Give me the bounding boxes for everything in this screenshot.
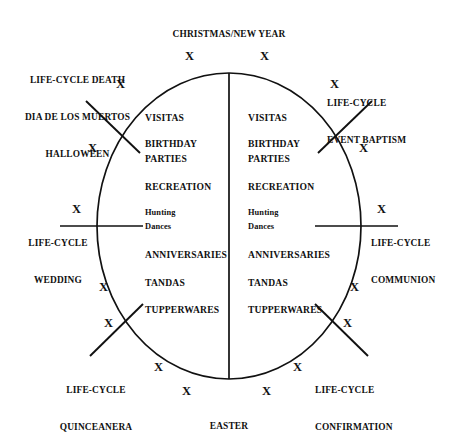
life-cycle-label-baptism: LIFE-CYCLE EVENT BAPTISM [327, 72, 451, 171]
life-cycle-confirmation-line-2: CONFIRMATION [315, 421, 440, 433]
life-cycle-communion-line-1: LIFE-CYCLE [371, 237, 455, 249]
x-marker-10: X [350, 281, 359, 294]
x-marker-15: X [182, 385, 191, 398]
life-cycle-label-confirmation: LIFE-CYCLE CONFIRMATION [315, 359, 440, 446]
left-entry-dances: Dances [145, 221, 171, 232]
x-marker-12: X [343, 317, 352, 330]
life-cycle-wedding-line-1: LIFE-CYCLE [12, 237, 104, 249]
anchor-label-bottom: EASTER [159, 420, 299, 432]
life-cycle-communion-line-2: COMMUNION [371, 274, 455, 286]
right-entry-anniversaries: ANNIVERSARIES [248, 249, 330, 262]
x-marker-2: X [260, 50, 269, 63]
left-entry-tupperwares: TUPPERWARES [145, 304, 219, 317]
x-marker-14: X [293, 361, 302, 374]
left-entry-anniversaries: ANNIVERSARIES [145, 249, 227, 262]
life-cycle-label-wedding: LIFE-CYCLE WEDDING [12, 212, 104, 311]
anchor-label-top: CHRISTMAS/NEW YEAR [139, 28, 319, 40]
right-entry-tupperwares: TUPPERWARES [248, 304, 322, 317]
life-cycle-death-line-2: DIA DE LOS MUERTOS [10, 111, 145, 123]
x-marker-6: X [359, 142, 368, 155]
life-cycle-baptism-line-2: EVENT BAPTISM [327, 134, 451, 146]
life-cycle-death-line-3: HALLOWEEN [10, 148, 145, 160]
right-entry-parties: PARTIES [248, 153, 290, 166]
life-cycle-baptism-line-1: LIFE-CYCLE [327, 97, 451, 109]
cycle-diagram-canvas: CHRISTMAS/NEW YEAR EASTER LIFE-CYCLE DEA… [0, 0, 455, 446]
life-cycle-label-communion: LIFE-CYCLE COMMUNION [371, 212, 455, 311]
right-entry-hunting: Hunting [248, 207, 279, 218]
right-entry-tandas: TANDAS [248, 277, 288, 290]
leader-line-confirmation [315, 304, 368, 356]
life-cycle-label-death: LIFE-CYCLE DEATH DIA DE LOS MUERTOS HALL… [10, 49, 145, 185]
x-marker-7: X [72, 203, 81, 216]
right-entry-dances: Dances [248, 221, 274, 232]
left-entry-tandas: TANDAS [145, 277, 185, 290]
right-entry-recreation: RECREATION [248, 181, 314, 194]
left-entry-visitas: VISITAS [145, 112, 184, 125]
life-cycle-wedding-line-2: WEDDING [12, 274, 104, 286]
x-marker-11: X [104, 317, 113, 330]
leader-line-quinceanera [90, 304, 143, 356]
left-entry-birthday: BIRTHDAY [145, 138, 197, 151]
life-cycle-quinceanera-line-2: QUINCEANERA [40, 421, 152, 433]
x-marker-9: X [99, 281, 108, 294]
right-entry-birthday: BIRTHDAY [248, 138, 300, 151]
x-marker-16: X [262, 385, 271, 398]
life-cycle-label-quinceanera: LIFE-CYCLE QUINCEANERA [40, 359, 152, 446]
left-entry-hunting: Hunting [145, 207, 176, 218]
x-marker-5: X [88, 142, 97, 155]
x-marker-3: X [116, 78, 125, 91]
x-marker-4: X [330, 78, 339, 91]
x-marker-8: X [377, 203, 386, 216]
left-entry-recreation: RECREATION [145, 181, 211, 194]
life-cycle-confirmation-line-1: LIFE-CYCLE [315, 384, 440, 396]
x-marker-13: X [154, 361, 163, 374]
x-marker-1: X [185, 50, 194, 63]
left-entry-parties: PARTIES [145, 153, 187, 166]
right-entry-visitas: VISITAS [248, 112, 287, 125]
life-cycle-quinceanera-line-1: LIFE-CYCLE [40, 384, 152, 396]
